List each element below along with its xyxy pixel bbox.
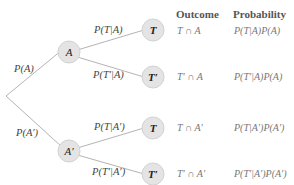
node-a-label: A bbox=[57, 47, 81, 58]
probability-row-4: P(T′|A′)P(A′) bbox=[234, 169, 287, 179]
branch-root-a-prime bbox=[6, 96, 62, 147]
label-p-t-prime-given-a-prime: P(T′|A′) bbox=[92, 167, 125, 178]
probability-row-3: P(T|A′)P(A′) bbox=[234, 123, 284, 133]
node-t-upper-label: T bbox=[141, 25, 165, 36]
label-p-t-given-a-prime: P(T|A′) bbox=[94, 122, 125, 133]
outcome-row-4: T′ ∩ A′ bbox=[177, 169, 205, 179]
header-probability: Probability bbox=[233, 9, 286, 20]
node-t-lower-label: T bbox=[141, 123, 165, 134]
probability-row-1: P(T|A)P(A) bbox=[234, 26, 280, 36]
node-t-prime-lower-label: T′ bbox=[141, 169, 165, 180]
probability-row-2: P(T′|A)P(A) bbox=[234, 72, 282, 82]
label-p-t-given-a: P(T|A) bbox=[94, 25, 123, 36]
outcome-row-2: T′ ∩ A bbox=[177, 72, 203, 82]
outcome-row-1: T ∩ A bbox=[177, 26, 201, 36]
node-a-prime-label: A′ bbox=[57, 146, 81, 157]
header-outcome: Outcome bbox=[176, 9, 219, 20]
node-t-prime-upper-label: T′ bbox=[141, 72, 165, 83]
label-p-t-prime-given-a: P(T′|A) bbox=[93, 70, 124, 81]
label-p-a-prime: P(A′) bbox=[16, 128, 38, 139]
label-p-a: P(A) bbox=[14, 64, 34, 75]
outcome-row-3: T ∩ A′ bbox=[177, 123, 203, 133]
